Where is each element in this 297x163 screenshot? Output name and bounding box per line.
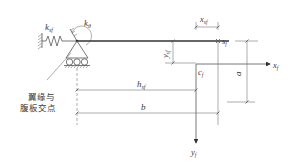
y-axis-label: yf — [190, 147, 198, 158]
spring-wall — [38, 33, 42, 49]
spring-stiffness-label: ksf — [45, 22, 54, 33]
b-label: b — [141, 102, 146, 112]
flange-model-diagram: ksf kθ 翼缘与 腹板交点 sf — [0, 0, 297, 163]
ysf-label: ysf — [160, 49, 171, 59]
x-axis-label: xf — [272, 60, 280, 71]
a-label: a — [233, 71, 243, 76]
hsf-label: hsf — [137, 79, 147, 90]
xsf-label: xsf — [199, 14, 209, 25]
a-dimension — [227, 40, 258, 104]
annotation-leader — [47, 53, 71, 80]
annotation-line2: 腹板交点 — [20, 103, 56, 113]
rotational-stiffness-label: kθ — [84, 18, 91, 29]
translational-spring — [42, 36, 77, 46]
b-dimension — [76, 112, 220, 115]
annotation-line1: 翼缘与 — [28, 92, 55, 102]
centroid-label: cf — [198, 67, 205, 78]
